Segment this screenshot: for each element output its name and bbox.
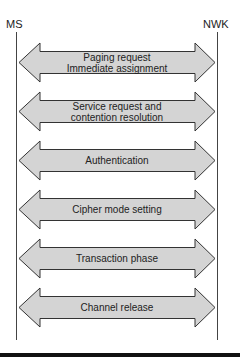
message-arrow: Authentication	[19, 141, 215, 180]
arrow-label: Channel release	[81, 302, 154, 313]
arrow-label: Authentication	[85, 155, 148, 166]
message-arrow: Paging requestImmediate assignment	[19, 43, 215, 82]
arrow-label: contention resolution	[71, 112, 163, 123]
message-arrow: Transaction phase	[19, 239, 215, 278]
arrow-label: Cipher mode setting	[72, 204, 162, 215]
message-arrow: Cipher mode setting	[19, 190, 215, 229]
message-arrow: Channel release	[19, 288, 215, 327]
arrow-label: Service request and	[73, 101, 162, 112]
sequence-diagram: Paging requestImmediate assignmentServic…	[0, 0, 240, 357]
arrow-label: Transaction phase	[76, 253, 158, 264]
arrow-label: Immediate assignment	[67, 63, 168, 74]
bottom-border	[0, 353, 240, 357]
arrow-label: Paging request	[83, 52, 150, 63]
message-arrow: Service request andcontention resolution	[19, 92, 215, 131]
